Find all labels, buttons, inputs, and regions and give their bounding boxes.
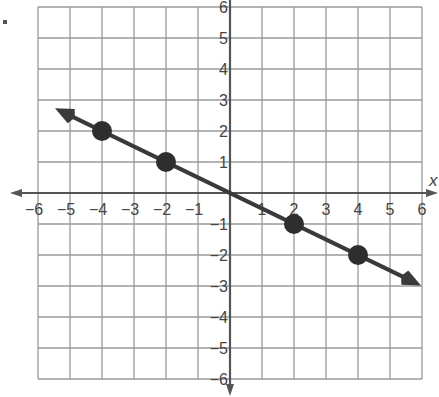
y-tick-label: 5 — [219, 30, 228, 47]
data-point — [284, 214, 304, 234]
x-axis-left-arrow-icon — [10, 189, 22, 197]
x-tick-label: −3 — [121, 201, 139, 218]
x-tick-label: −6 — [25, 201, 43, 218]
y-tick-label: 2 — [219, 123, 228, 140]
data-series — [55, 108, 421, 285]
line-start-arrow-icon — [55, 108, 75, 123]
x-tick-label: 6 — [418, 201, 427, 218]
y-tick-label: −5 — [210, 340, 228, 357]
data-point — [92, 121, 112, 141]
data-point — [156, 152, 176, 172]
x-axis-label: x — [428, 171, 438, 190]
y-tick-label: 1 — [219, 154, 228, 171]
y-tick-label: −6 — [210, 371, 228, 388]
data-point — [348, 245, 368, 265]
y-tick-label: −1 — [210, 216, 228, 233]
x-tick-label: −1 — [185, 201, 203, 218]
axes — [10, 0, 438, 396]
y-tick-label: 6 — [219, 0, 228, 16]
y-tick-label: −2 — [210, 247, 228, 264]
line-end-arrow-icon — [401, 270, 421, 285]
x-tick-label: −2 — [153, 201, 171, 218]
x-tick-label: 4 — [354, 201, 363, 218]
y-tick-label: 3 — [219, 92, 228, 109]
y-tick-label: −4 — [210, 309, 228, 326]
x-tick-label: 3 — [322, 201, 331, 218]
x-tick-label: −4 — [89, 201, 107, 218]
x-axis-right-arrow-icon — [426, 189, 438, 197]
x-tick-label: −5 — [57, 201, 75, 218]
y-tick-label: 4 — [219, 61, 228, 78]
y-tick-label: −3 — [210, 278, 228, 295]
coordinate-plane: −6−5−4−3−2−1123456654321−1−2−3−4−5−6 x — [0, 0, 439, 397]
x-tick-label: 5 — [386, 201, 395, 218]
